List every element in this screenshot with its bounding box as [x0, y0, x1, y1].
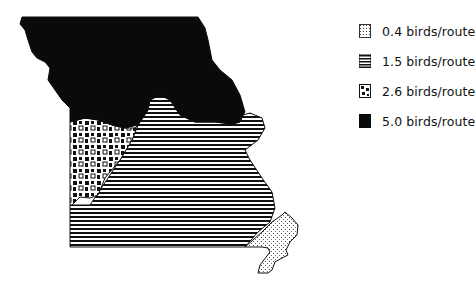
legend-label: 5.0 birds/route	[382, 114, 475, 129]
legend-item-blotches: 2.6 birds/route	[359, 76, 475, 106]
missouri-map	[0, 0, 350, 290]
legend-item-solid: 5.0 birds/route	[359, 106, 475, 136]
legend-item-lines: 1.5 birds/route	[359, 46, 475, 76]
solid-swatch-icon	[359, 114, 371, 128]
blotches-swatch-icon	[359, 84, 371, 98]
legend-label: 1.5 birds/route	[382, 54, 475, 69]
horizontal-lines-swatch-icon	[359, 54, 371, 68]
legend: 0.4 birds/route 1.5 birds/route 2	[359, 16, 475, 136]
legend-label: 2.6 birds/route	[382, 84, 475, 99]
legend-item-stipple: 0.4 birds/route	[359, 16, 475, 46]
region-north	[20, 17, 245, 128]
legend-label: 0.4 birds/route	[382, 24, 475, 39]
stipple-swatch-icon	[359, 24, 371, 38]
